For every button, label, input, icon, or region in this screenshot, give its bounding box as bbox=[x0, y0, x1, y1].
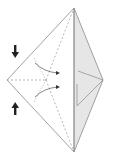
fold-arrow-upper bbox=[35, 63, 58, 73]
push-up-arrow-icon bbox=[12, 102, 20, 115]
origami-diagram bbox=[0, 0, 113, 158]
fold-arrow-lower-head bbox=[56, 85, 60, 89]
crease-upper-diag bbox=[46, 8, 74, 80]
crease-lower-inner bbox=[34, 80, 46, 102]
crease-lower-diag bbox=[46, 80, 74, 152]
right-flap-shaded bbox=[74, 8, 103, 152]
fold-arrow-upper-head bbox=[56, 71, 60, 75]
crease-upper-inner bbox=[34, 58, 46, 80]
fold-arrow-lower bbox=[35, 87, 58, 97]
push-down-arrow-icon bbox=[12, 45, 20, 58]
